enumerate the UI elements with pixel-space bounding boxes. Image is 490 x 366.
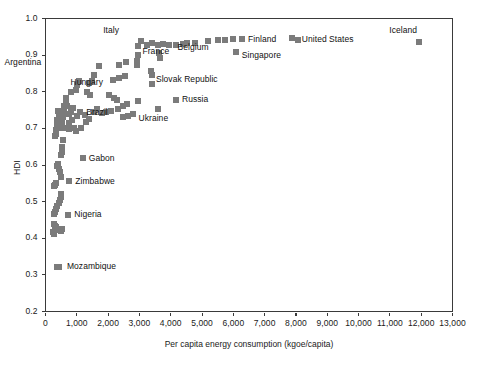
data-point — [80, 155, 86, 161]
data-point — [55, 108, 61, 114]
data-point — [63, 95, 69, 101]
data-point — [114, 97, 120, 103]
data-point — [73, 128, 79, 134]
data-point — [120, 114, 126, 120]
point-label: Gabon — [89, 153, 115, 163]
data-point — [289, 35, 295, 41]
x-tick — [264, 313, 265, 317]
point-label: Ukraine — [139, 113, 169, 123]
x-tick — [421, 313, 422, 317]
data-point — [295, 37, 301, 43]
x-tick — [295, 313, 296, 317]
x-tick — [45, 313, 46, 317]
point-label: Hungary — [43, 77, 103, 87]
data-point — [173, 97, 179, 103]
y-tick — [42, 201, 46, 202]
point-label: Slovak Republic — [156, 74, 218, 84]
data-point — [110, 77, 116, 83]
data-point — [416, 39, 422, 45]
y-tick-label: 0.5 — [14, 196, 38, 206]
data-point — [52, 133, 58, 139]
point-label: Zimbabwe — [75, 176, 115, 186]
point-label: Russia — [182, 94, 208, 104]
data-point — [134, 62, 140, 68]
data-point — [59, 226, 65, 232]
y-tick — [42, 18, 46, 19]
x-tick — [233, 313, 234, 317]
y-tick-label: 1.0 — [14, 13, 38, 23]
point-label: Brazil — [86, 107, 108, 117]
data-point — [239, 36, 245, 42]
x-tick — [327, 313, 328, 317]
y-tick-label: 0.8 — [14, 86, 38, 96]
y-axis-title: HDI — [12, 160, 22, 175]
x-tick — [358, 313, 359, 317]
x-tick — [202, 313, 203, 317]
point-label: United States — [302, 34, 354, 44]
y-tick — [42, 238, 46, 239]
y-tick — [42, 55, 46, 56]
data-point — [68, 89, 74, 95]
point-label: Iceland — [357, 25, 417, 35]
data-point — [66, 178, 72, 184]
data-point — [51, 183, 57, 189]
data-point — [123, 59, 129, 65]
data-point — [115, 106, 121, 112]
top-spine — [46, 18, 453, 19]
y-tick — [42, 165, 46, 166]
x-axis-line — [46, 311, 453, 312]
y-tick — [42, 274, 46, 275]
y-tick-label: 0.7 — [14, 122, 38, 132]
x-tick — [170, 313, 171, 317]
point-label: Nigeria — [74, 209, 101, 219]
data-point — [96, 63, 102, 69]
x-tick — [108, 313, 109, 317]
y-tick-label: 0.4 — [14, 232, 38, 242]
x-tick — [139, 313, 140, 317]
x-tick — [76, 313, 77, 317]
point-label: Mozambique — [67, 261, 116, 271]
point-label: Singapore — [242, 50, 281, 60]
data-point — [51, 211, 57, 217]
data-point — [87, 92, 93, 98]
data-point — [60, 137, 66, 143]
data-point — [58, 152, 64, 158]
data-point — [135, 98, 141, 104]
data-point — [54, 264, 60, 270]
x-axis-title: Per capita energy consumption (kgoe/capi… — [163, 339, 335, 349]
data-point — [155, 106, 161, 112]
data-point — [69, 117, 75, 123]
y-tick — [42, 91, 46, 92]
y-tick — [42, 128, 46, 129]
point-label: Belgium — [149, 42, 209, 52]
data-point — [215, 37, 221, 43]
y-tick-label: 0.3 — [14, 269, 38, 279]
data-point — [51, 231, 57, 237]
data-point — [122, 73, 128, 79]
point-label: Italy — [59, 25, 119, 35]
right-spine — [452, 19, 453, 312]
data-point — [222, 37, 228, 43]
x-tick — [389, 313, 390, 317]
y-tick-label: 0.2 — [14, 306, 38, 316]
point-label: Finland — [248, 34, 276, 44]
data-point — [233, 49, 239, 55]
x-tick — [452, 313, 453, 317]
data-point — [149, 72, 155, 78]
data-point — [149, 81, 155, 87]
data-point — [116, 62, 122, 68]
point-label: Argentina — [0, 57, 41, 67]
data-point — [230, 36, 236, 42]
data-point — [116, 75, 122, 81]
scatter-chart: 0.20.30.40.50.60.70.80.91.001,0002,0003,… — [0, 0, 490, 366]
x-tick-label: 13,000 — [433, 318, 473, 328]
data-point — [65, 212, 71, 218]
